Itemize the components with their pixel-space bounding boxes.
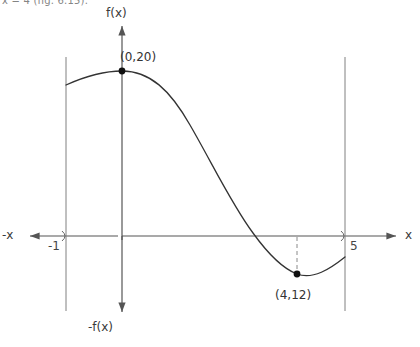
x-axis-positive-label: x xyxy=(405,228,412,242)
figure-container: x = 4 (fig. 6.15). xyxy=(0,0,420,347)
minimum-point-label: (4,12) xyxy=(275,288,311,302)
maximum-point-marker xyxy=(119,68,126,75)
y-axis-positive-label: f(x) xyxy=(106,6,127,20)
x-axis-negative-label: -x xyxy=(2,228,13,242)
maximum-point-label: (0,20) xyxy=(120,50,156,64)
minimum-point-marker xyxy=(294,271,301,278)
y-axis-negative-label: -f(x) xyxy=(88,320,113,334)
function-curve xyxy=(66,71,345,276)
x-tick-label-5: 5 xyxy=(350,239,358,253)
x-tick-label-minus-1: -1 xyxy=(48,239,60,253)
function-graph-plot xyxy=(0,0,420,347)
